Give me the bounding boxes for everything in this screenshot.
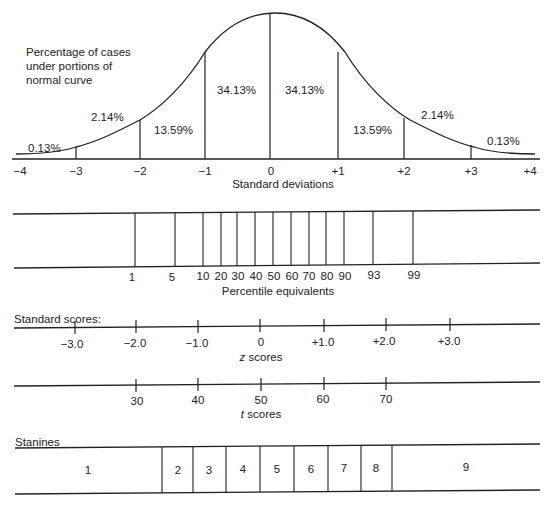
percentile-tick: 20: [215, 270, 228, 282]
area-label: 34.13%: [285, 84, 324, 96]
sd-tick: +4: [523, 165, 537, 177]
normal-curve: [16, 13, 535, 154]
sd-tick: −1: [198, 165, 211, 177]
z-tick: +3.0: [438, 335, 461, 347]
sd-tick: +3: [464, 165, 477, 177]
t-score-ticks: 30 40 50 60 70 t scores: [131, 393, 393, 420]
percentile-ticks: 1 5 10 20 30 40 50 60 70 80 90 93 99 Per…: [129, 269, 421, 297]
stanine-cell: 7: [341, 462, 347, 474]
area-label: 0.13%: [487, 135, 520, 147]
z-tick: +1.0: [312, 336, 335, 348]
z-tick: +2.0: [373, 335, 396, 347]
percentile-top-line: [13, 210, 540, 214]
stanine-cell: 4: [240, 463, 247, 475]
t-axis-label: t scores: [241, 408, 282, 420]
percentile-tick: 90: [339, 270, 352, 282]
percentile-tick: 93: [368, 269, 381, 281]
percentile-tick: 5: [169, 271, 175, 283]
stanine-bottom-line: [15, 490, 540, 494]
sd-tick: 0: [268, 165, 274, 177]
percentile-dividers: [135, 211, 413, 267]
t-tick: 40: [192, 394, 205, 406]
z-axis-label: z scores: [239, 351, 283, 363]
normal-curve-section: Percentage of cases under portions of no…: [12, 13, 540, 190]
z-tick: −1.0: [186, 337, 209, 349]
caption-line-1: Percentage of cases: [26, 46, 131, 58]
standard-scores-section: Standard scores: −3.0 −2.0 −1.0 0 +1.0 +…: [14, 313, 540, 420]
sd-tick: −4: [13, 165, 27, 177]
percentile-tick: 60: [286, 270, 299, 282]
sd-axis-ticks: −4 −3 −2 −1 0 +1 +2 +3 +4 Standard devia…: [13, 165, 537, 190]
percentile-tick: 30: [232, 270, 245, 282]
percentile-tick: 10: [197, 270, 210, 282]
percentile-tick: 70: [303, 270, 316, 282]
z-score-ticks: −3.0 −2.0 −1.0 0 +1.0 +2.0 +3.0 z scores: [61, 335, 461, 363]
t-tick: 70: [380, 393, 393, 405]
z-tick: −2.0: [124, 337, 147, 349]
t-tick: 30: [131, 395, 144, 407]
t-tick: 60: [317, 393, 330, 405]
area-label: 34.13%: [217, 84, 256, 96]
stanine-cell: 3: [206, 464, 212, 476]
standard-scores-heading: Standard scores:: [14, 313, 101, 325]
t-tick: 50: [255, 394, 268, 406]
percentile-section: 1 5 10 20 30 40 50 60 70 80 90 93 99 Per…: [13, 210, 540, 297]
z-tick: 0: [258, 336, 264, 348]
stanine-cell: 5: [274, 463, 280, 475]
stanine-cell: 2: [175, 464, 181, 476]
stanine-cell: 9: [463, 461, 469, 473]
stanine-cell: 8: [373, 462, 379, 474]
area-label: 13.59%: [154, 124, 193, 136]
sd-tick: +2: [397, 165, 410, 177]
normal-curve-diagram: Percentage of cases under portions of no…: [0, 0, 551, 506]
area-label: 13.59%: [353, 124, 392, 136]
percentile-bottom-line: [14, 263, 540, 268]
stanine-cells: 1 2 3 4 5 6 7 8 9: [85, 461, 469, 476]
stanine-cell: 1: [85, 464, 91, 476]
stanines-heading: Stanines: [15, 436, 60, 448]
percentile-tick: 50: [268, 270, 281, 282]
percentile-tick: 99: [408, 269, 421, 281]
percentile-axis-label: Percentile equivalents: [222, 285, 335, 297]
sd-tick: −2: [133, 165, 146, 177]
percentile-tick: 40: [250, 270, 263, 282]
percentile-tick: 80: [321, 270, 334, 282]
t-score-line: [14, 382, 540, 386]
area-label: 2.14%: [91, 111, 124, 123]
z-tick: −3.0: [61, 338, 84, 350]
caption-line-3: normal curve: [26, 74, 92, 86]
stanine-top-line: [15, 444, 540, 448]
percentile-tick: 1: [129, 271, 135, 283]
stanines-section: Stanines 1 2 3 4 5 6 7 8 9: [15, 436, 540, 494]
sd-tick: +1: [331, 165, 344, 177]
area-label: 2.14%: [421, 109, 454, 121]
sd-axis-label: Standard deviations: [232, 178, 334, 190]
caption-line-2: under portions of: [26, 60, 113, 72]
stanine-cell: 6: [308, 463, 314, 475]
sd-tick: −3: [69, 165, 82, 177]
area-label: 0.13%: [28, 142, 61, 154]
